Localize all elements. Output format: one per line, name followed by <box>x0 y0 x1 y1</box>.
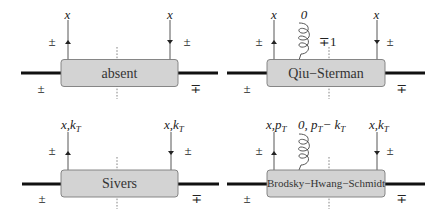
left-quark-label: x <box>64 7 71 22</box>
arrow-down-icon <box>168 151 174 155</box>
beam-left-helicity: ± <box>37 81 44 96</box>
beam-left-helicity: ± <box>243 81 250 96</box>
label-subscript: T <box>179 124 185 134</box>
right-helicity: ± <box>184 143 191 158</box>
beam-left-helicity: ± <box>38 191 45 206</box>
gluon-label: 0 <box>301 7 308 22</box>
panel-absent: absent x x ± ± ± ∓ <box>21 7 218 99</box>
right-quark-label: x,kT <box>368 117 390 134</box>
right-helicity: ± <box>386 34 393 49</box>
box-label: Brodsky−Hwang−Schmidt <box>267 177 385 189</box>
label-subscript: T <box>282 124 288 134</box>
label-main: x,k <box>60 117 76 132</box>
left-quark-label: x,kT <box>60 117 82 134</box>
panel-qiu-sterman: Qiu−Sterman x x 0 ∓1 ± ± ± ∓ <box>227 7 425 99</box>
gluon-label: 0, pT− kT <box>298 117 346 134</box>
right-helicity: ± <box>386 143 393 158</box>
label-main: x,k <box>163 117 179 132</box>
arrow-up-icon <box>271 40 277 44</box>
right-quark-label: x,kT <box>163 117 185 134</box>
label-part: − k <box>323 117 341 132</box>
label-main: x,k <box>368 117 384 132</box>
box-label: Sivers <box>102 176 137 191</box>
label-subscript: T <box>340 124 346 134</box>
panel-sivers: Sivers x,kT x,kT ± ± ± ∓ <box>22 117 219 209</box>
gluon-icon <box>299 134 310 170</box>
beam-left-helicity: ± <box>243 191 250 206</box>
box-label: Qiu−Sterman <box>288 66 364 81</box>
left-quark-label: x,pT <box>265 117 288 134</box>
left-quark-label: x <box>270 7 277 22</box>
label-main: x,p <box>265 117 282 132</box>
box-label: absent <box>102 66 138 81</box>
arrow-up-icon <box>65 151 71 155</box>
arrow-up-icon <box>65 40 71 44</box>
arrow-up-icon <box>271 151 277 155</box>
arrow-down-icon <box>374 40 380 44</box>
right-quark-label: x <box>166 7 173 22</box>
right-quark-label: x <box>373 7 380 22</box>
panel-brodsky-hwang-schmidt: Brodsky−Hwang−Schmidt x,pT 0, pT− kT x,k… <box>227 117 425 209</box>
left-helicity: ± <box>255 34 262 49</box>
beam-right-helicity: ∓ <box>397 191 408 206</box>
right-helicity: ± <box>183 34 190 49</box>
gluon-helicity: ∓1 <box>319 34 336 49</box>
label-subscript: T <box>76 124 82 134</box>
beam-right-helicity: ∓ <box>192 191 203 206</box>
beam-right-helicity: ∓ <box>397 81 408 96</box>
left-helicity: ± <box>48 143 55 158</box>
left-helicity: ± <box>48 34 55 49</box>
beam-right-helicity: ∓ <box>191 81 202 96</box>
label-part: 0, p <box>298 117 318 132</box>
arrow-down-icon <box>374 151 380 155</box>
gluon-icon <box>299 23 310 60</box>
label-subscript: T <box>384 124 390 134</box>
arrow-down-icon <box>167 40 173 44</box>
left-helicity: ± <box>255 143 262 158</box>
diagram-canvas: absent x x ± ± ± ∓ Qiu−Sterman x x 0 ∓1 … <box>0 0 443 220</box>
